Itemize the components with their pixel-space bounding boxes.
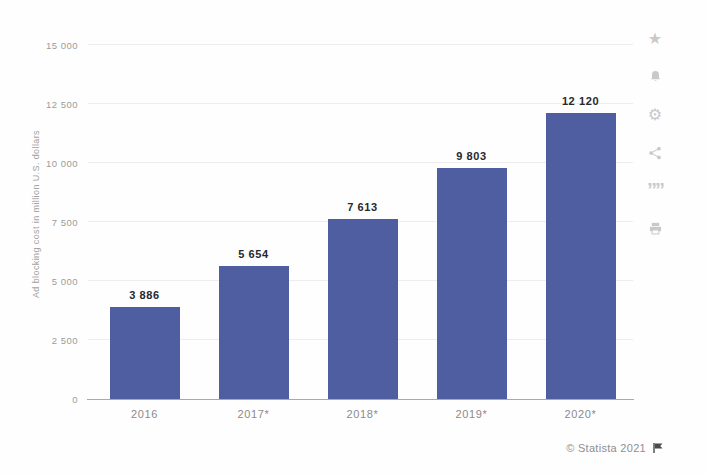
print-icon[interactable]	[647, 220, 664, 237]
y-tick-label: 5 000	[10, 276, 78, 287]
favorite-star-icon[interactable]: ★	[647, 30, 664, 47]
bar-2016[interactable]	[110, 307, 180, 399]
chart-plot-area: 3 8865 6547 6139 80312 120	[90, 45, 635, 399]
statista-chart-page: Ad blocking cost in million U.S. dollars…	[0, 0, 708, 474]
x-axis-labels: 20162017*2018*2019*2020*	[90, 408, 635, 420]
x-label-2020*: 2020*	[526, 408, 635, 420]
report-flag-icon[interactable]	[652, 442, 664, 454]
copyright-text: © Statista 2021	[566, 442, 646, 454]
chart-toolbar: ★⚙””	[645, 30, 665, 237]
y-tick-label: 10 000	[10, 158, 78, 169]
bar-value-label: 9 803	[456, 150, 487, 162]
y-axis-title: Ad blocking cost in million U.S. dollars	[31, 130, 41, 298]
y-tick-label: 15 000	[10, 40, 78, 51]
share-icon[interactable]	[647, 144, 664, 161]
x-label-2016: 2016	[90, 408, 199, 420]
bar-2020*[interactable]	[546, 113, 616, 399]
bar-value-label: 3 886	[129, 289, 160, 301]
x-label-2019*: 2019*	[417, 408, 526, 420]
settings-gear-icon[interactable]: ⚙	[647, 106, 664, 123]
bar-column-2020*: 12 120	[526, 45, 635, 399]
bar-column-2016: 3 886	[90, 45, 199, 399]
bar-value-label: 7 613	[347, 201, 378, 213]
x-label-2017*: 2017*	[199, 408, 308, 420]
chart-footer: © Statista 2021	[566, 442, 664, 454]
bar-2018*[interactable]	[328, 219, 398, 399]
bar-series: 3 8865 6547 6139 80312 120	[90, 45, 635, 399]
bar-column-2017*: 5 654	[199, 45, 308, 399]
notification-bell-icon[interactable]	[647, 68, 664, 85]
y-tick-label: 0	[10, 394, 78, 405]
y-tick-label: 12 500	[10, 99, 78, 110]
bar-value-label: 12 120	[562, 95, 599, 107]
bar-column-2018*: 7 613	[308, 45, 417, 399]
x-label-2018*: 2018*	[308, 408, 417, 420]
bar-2019*[interactable]	[437, 168, 507, 399]
bar-2017*[interactable]	[219, 266, 289, 399]
y-tick-label: 7 500	[10, 217, 78, 228]
y-tick-label: 2 500	[10, 335, 78, 346]
citation-quote-icon[interactable]: ””	[647, 182, 664, 199]
bar-value-label: 5 654	[238, 248, 269, 260]
bar-column-2019*: 9 803	[417, 45, 526, 399]
x-axis-line	[87, 399, 634, 400]
